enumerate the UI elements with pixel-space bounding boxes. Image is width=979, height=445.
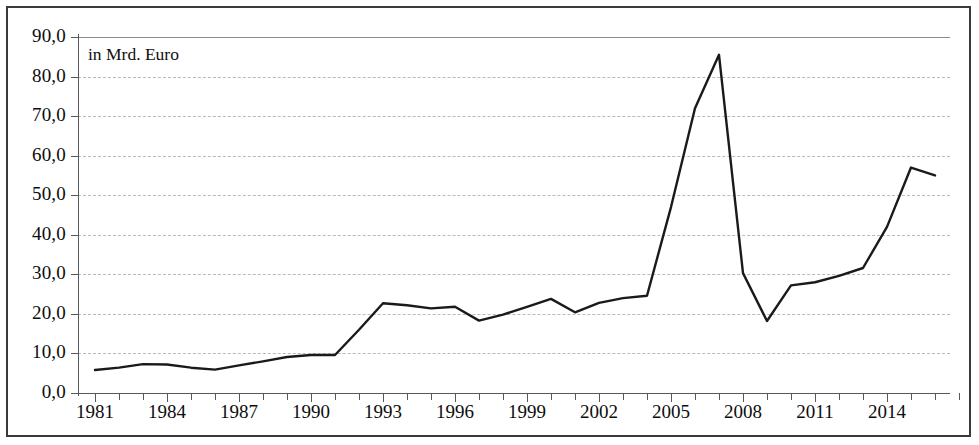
y-axis-line bbox=[78, 34, 79, 396]
y-axis-tick bbox=[71, 235, 79, 236]
plot-area bbox=[78, 37, 950, 393]
y-axis-tick bbox=[71, 77, 79, 78]
y-axis-tick-label: 10,0 bbox=[4, 341, 66, 363]
gridline bbox=[78, 116, 950, 117]
x-axis-tick-label: 1984 bbox=[148, 401, 186, 423]
x-axis-tick-label: 1999 bbox=[508, 401, 546, 423]
gridline bbox=[78, 314, 950, 315]
y-axis-tick bbox=[71, 156, 79, 157]
x-axis-tick-label: 2014 bbox=[868, 401, 906, 423]
x-axis-minor-tick bbox=[287, 393, 288, 400]
x-axis-minor-tick bbox=[935, 393, 936, 400]
x-axis-tick-label: 2011 bbox=[796, 401, 833, 423]
x-axis-minor-tick bbox=[767, 393, 768, 400]
unit-annotation: in Mrd. Euro bbox=[88, 44, 179, 65]
gridline bbox=[78, 156, 950, 157]
x-axis-tick-label: 2002 bbox=[580, 401, 618, 423]
x-axis-minor-tick bbox=[839, 393, 840, 400]
x-axis-minor-tick bbox=[191, 393, 192, 400]
gridline bbox=[78, 77, 950, 78]
y-axis-tick-label: 50,0 bbox=[4, 183, 66, 205]
y-axis-tick-label: 70,0 bbox=[4, 104, 66, 126]
x-axis-minor-tick bbox=[959, 393, 960, 400]
y-axis-tick bbox=[71, 116, 79, 117]
gridline bbox=[78, 235, 950, 236]
x-axis-tick-label: 1987 bbox=[220, 401, 258, 423]
y-axis-tick-label: 80,0 bbox=[4, 65, 66, 87]
y-axis-tick bbox=[71, 314, 79, 315]
x-axis-tick-label: 1981 bbox=[76, 401, 114, 423]
x-axis-minor-tick bbox=[335, 393, 336, 400]
gridline bbox=[78, 353, 950, 354]
y-axis-tick-label: 40,0 bbox=[4, 223, 66, 245]
y-axis-tick-label: 60,0 bbox=[4, 144, 66, 166]
y-axis-tick bbox=[71, 274, 79, 275]
y-axis-labels: 90,080,070,060,050,040,030,020,010,00,0 bbox=[0, 0, 66, 445]
x-axis-minor-tick bbox=[479, 393, 480, 400]
x-axis-tick-label: 1996 bbox=[436, 401, 474, 423]
x-axis-minor-tick bbox=[647, 393, 648, 400]
x-axis-minor-tick bbox=[503, 393, 504, 400]
y-axis-tick-label: 0,0 bbox=[4, 381, 66, 403]
x-axis-minor-tick bbox=[551, 393, 552, 400]
x-axis-minor-tick bbox=[215, 393, 216, 400]
x-axis-tick-label: 2008 bbox=[724, 401, 762, 423]
x-axis-minor-tick bbox=[695, 393, 696, 400]
x-axis-minor-tick bbox=[791, 393, 792, 400]
y-axis-tick-label: 30,0 bbox=[4, 262, 66, 284]
x-axis-minor-tick bbox=[119, 393, 120, 400]
x-axis-minor-tick bbox=[719, 393, 720, 400]
x-axis-minor-tick bbox=[143, 393, 144, 400]
x-axis-tick-label: 1990 bbox=[292, 401, 330, 423]
x-axis-tick-label: 2005 bbox=[652, 401, 690, 423]
x-axis-tick-label: 1993 bbox=[364, 401, 402, 423]
y-axis-tick bbox=[71, 353, 79, 354]
x-axis-minor-tick bbox=[623, 393, 624, 400]
y-axis-tick bbox=[71, 37, 79, 38]
x-axis-minor-tick bbox=[263, 393, 264, 400]
gridline bbox=[78, 37, 950, 38]
x-axis-minor-tick bbox=[575, 393, 576, 400]
x-axis-minor-tick bbox=[863, 393, 864, 400]
x-axis-minor-tick bbox=[407, 393, 408, 400]
gridline bbox=[78, 195, 950, 196]
x-axis-minor-tick bbox=[911, 393, 912, 400]
y-axis-tick bbox=[71, 195, 79, 196]
chart-figure: 90,080,070,060,050,040,030,020,010,00,0 … bbox=[0, 0, 979, 445]
y-axis-tick bbox=[71, 393, 79, 394]
y-axis-tick-label: 20,0 bbox=[4, 302, 66, 324]
gridline bbox=[78, 274, 950, 275]
x-axis-minor-tick bbox=[431, 393, 432, 400]
x-axis-line bbox=[78, 393, 950, 394]
y-axis-tick-label: 90,0 bbox=[4, 25, 66, 47]
x-axis-minor-tick bbox=[359, 393, 360, 400]
